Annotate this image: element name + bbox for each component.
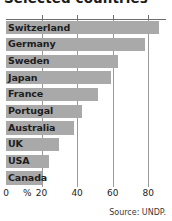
bar-category-label: Switzerland: [8, 22, 70, 34]
bar-series: SwitzerlandGermanySwedenJapanFrancePortu…: [6, 20, 166, 187]
bar-row[interactable]: Switzerland: [6, 20, 166, 37]
bar-row[interactable]: Sweden: [6, 53, 166, 70]
source-note: Source: UNDP.: [109, 208, 166, 218]
page-title: Selected countries: [4, 0, 170, 5]
x-axis-unit-label: %: [23, 188, 32, 199]
bar-row[interactable]: Canada: [6, 170, 166, 187]
bar-row[interactable]: Germany: [6, 37, 166, 54]
x-axis-tick-label: 40: [71, 188, 82, 199]
bar-category-label: France: [8, 88, 43, 100]
bar-row[interactable]: Japan: [6, 70, 166, 87]
bar-category-label: Japan: [8, 72, 37, 84]
bar-row[interactable]: USA: [6, 154, 166, 171]
bar-category-label: UK: [8, 138, 23, 150]
bar-category-label: Australia: [8, 122, 55, 134]
bar-row[interactable]: France: [6, 87, 166, 104]
plot-area: SwitzerlandGermanySwedenJapanFrancePortu…: [6, 19, 166, 187]
bar-category-label: Portugal: [8, 105, 53, 117]
bar-row[interactable]: Australia: [6, 120, 166, 137]
x-axis-tick-label: 0: [3, 188, 9, 199]
bar-category-label: USA: [8, 155, 30, 167]
x-axis-tick-label: 60: [107, 188, 118, 199]
bar-category-label: Canada: [8, 172, 47, 184]
x-axis: % 020406080: [6, 188, 166, 201]
bar-category-label: Germany: [8, 38, 56, 50]
x-axis-tick-label: 20: [36, 188, 47, 199]
x-axis-tick-label: 80: [142, 188, 153, 199]
bar-row[interactable]: UK: [6, 137, 166, 154]
bar-chart-figure: Selected countries SwitzerlandGermanySwe…: [0, 0, 172, 221]
bar-row[interactable]: Portugal: [6, 103, 166, 120]
bar-category-label: Sweden: [8, 55, 49, 67]
